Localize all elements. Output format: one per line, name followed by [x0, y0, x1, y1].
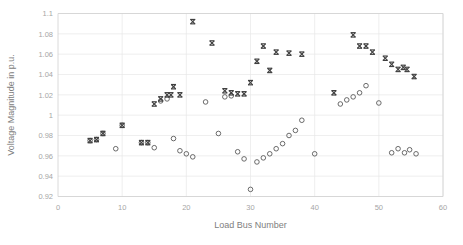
- gridlines: [58, 14, 443, 197]
- data-point-open: [293, 128, 298, 133]
- data-point-open: [190, 155, 195, 160]
- y-axis-title: Voltage Magnitude in p.u.: [6, 54, 16, 156]
- data-point-open: [171, 136, 176, 141]
- data-point-open: [402, 150, 407, 155]
- data-point-open: [344, 98, 349, 103]
- y-tick-label: 1.1: [43, 9, 53, 18]
- x-tick-labels: 0102030405060: [56, 203, 447, 212]
- y-tick-label: 1.02: [38, 91, 53, 100]
- data-point-x: [145, 140, 150, 144]
- data-point-x: [222, 89, 227, 93]
- data-point-x: [210, 41, 215, 45]
- chart-canvas: 0.920.940.960.9811.021.041.061.081.1 010…: [0, 0, 463, 245]
- x-tick-label: 60: [439, 203, 447, 212]
- data-point-open: [389, 150, 394, 155]
- data-point-x: [267, 68, 272, 72]
- y-tick-label: 0.96: [38, 152, 53, 161]
- data-point-x: [351, 33, 356, 37]
- y-tick-label: 0.94: [38, 172, 53, 181]
- y-tick-label: 1.08: [38, 30, 53, 39]
- y-tick-labels: 0.920.940.960.9811.021.041.061.081.1: [38, 9, 53, 201]
- data-point-x: [171, 85, 176, 89]
- data-point-x: [389, 62, 394, 66]
- data-point-x: [94, 137, 99, 141]
- data-point-open: [396, 146, 401, 151]
- data-point-open: [407, 147, 412, 152]
- data-point-x: [261, 44, 266, 48]
- data-point-open: [274, 146, 279, 151]
- data-point-open: [300, 118, 305, 123]
- data-points-filled-x: [88, 19, 417, 144]
- data-point-x: [396, 67, 401, 71]
- data-point-open: [364, 83, 369, 88]
- x-axis-title: Load Bus Number: [214, 220, 287, 230]
- data-point-x: [412, 74, 417, 78]
- data-point-open: [242, 157, 247, 162]
- data-point-open: [223, 95, 228, 100]
- x-tick-label: 10: [118, 203, 126, 212]
- y-tick-label: 0.98: [38, 131, 53, 140]
- data-point-open: [178, 148, 183, 153]
- data-point-x: [139, 140, 144, 144]
- data-points-open-circles: [88, 83, 419, 191]
- data-point-open: [414, 152, 419, 157]
- scatter-chart: 0.920.940.960.9811.021.041.061.081.1 010…: [0, 0, 463, 245]
- data-point-x: [229, 91, 234, 95]
- data-point-open: [357, 91, 362, 96]
- x-tick-label: 50: [375, 203, 383, 212]
- data-point-open: [235, 149, 240, 154]
- data-point-x: [331, 91, 336, 95]
- data-point-x: [190, 19, 195, 23]
- data-point-x: [242, 92, 247, 96]
- data-point-x: [152, 102, 157, 106]
- data-point-open: [203, 100, 208, 105]
- data-point-open: [152, 145, 157, 150]
- data-point-x: [235, 92, 240, 96]
- y-tick-label: 1: [49, 111, 53, 120]
- data-point-open: [216, 131, 221, 136]
- data-point-x: [370, 50, 375, 54]
- x-tick-label: 40: [310, 203, 318, 212]
- x-tick-label: 20: [182, 203, 190, 212]
- data-point-open: [255, 160, 260, 165]
- data-point-open: [351, 95, 356, 100]
- y-tick-label: 0.92: [38, 192, 53, 201]
- data-point-open: [261, 156, 266, 161]
- data-point-x: [357, 44, 362, 48]
- y-tick-label: 1.06: [38, 50, 53, 59]
- data-point-x: [383, 56, 388, 60]
- data-point-x: [88, 138, 93, 142]
- x-tick-label: 30: [246, 203, 254, 212]
- y-tick-label: 1.04: [38, 70, 53, 79]
- data-point-open: [113, 146, 118, 151]
- data-point-x: [274, 50, 279, 54]
- data-point-x: [254, 59, 259, 63]
- x-tick-label: 0: [56, 203, 60, 212]
- data-point-x: [100, 131, 105, 135]
- data-point-x: [364, 44, 369, 48]
- data-point-open: [267, 152, 272, 157]
- data-point-open: [280, 141, 285, 146]
- data-point-open: [338, 102, 343, 107]
- data-point-x: [287, 51, 292, 55]
